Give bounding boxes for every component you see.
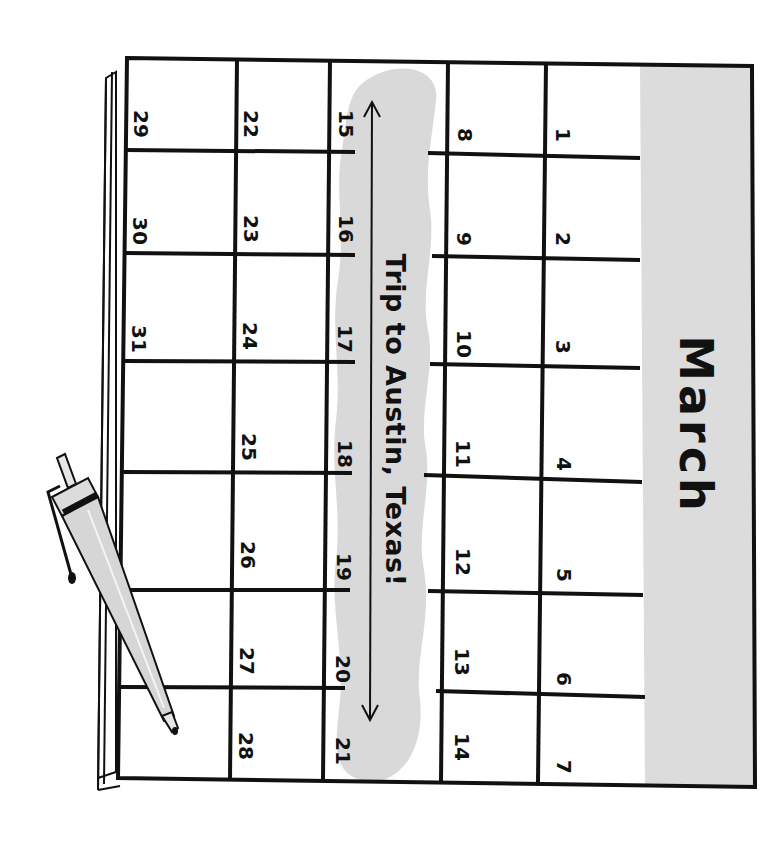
day-1[interactable]: 1	[551, 128, 575, 142]
pad-back-pages	[98, 72, 120, 790]
day-11[interactable]: 11	[451, 440, 475, 468]
day-27[interactable]: 27	[235, 647, 259, 675]
day-23[interactable]: 23	[239, 215, 263, 243]
day-13[interactable]: 13	[450, 648, 474, 676]
day-16[interactable]: 16	[334, 215, 358, 243]
day-10[interactable]: 10	[452, 330, 476, 358]
day-12[interactable]: 12	[451, 548, 475, 576]
day-28[interactable]: 28	[234, 732, 258, 760]
day-31[interactable]: 31	[127, 325, 151, 353]
day-30[interactable]: 30	[128, 217, 152, 245]
day-6[interactable]: 6	[552, 672, 576, 686]
svg-text:March: March	[669, 335, 723, 515]
month-title: March	[669, 335, 723, 515]
day-17[interactable]: 17	[333, 325, 357, 353]
calendar-illustration: March 1 2 3 4 5 6 7 8 9 10 11 12 13 14 1…	[0, 0, 765, 841]
day-5[interactable]: 5	[552, 568, 576, 582]
event-label: Trip to Austin, Texas!	[380, 254, 411, 587]
day-15[interactable]: 15	[334, 110, 358, 138]
svg-text:Trip to Austin, Texas!: Trip to Austin, Texas!	[380, 254, 411, 587]
day-20[interactable]: 20	[331, 655, 355, 683]
day-21[interactable]: 21	[331, 737, 355, 765]
day-24[interactable]: 24	[238, 322, 262, 350]
day-29[interactable]: 29	[129, 110, 153, 138]
day-9[interactable]: 9	[452, 232, 476, 246]
day-26[interactable]: 26	[236, 541, 260, 569]
calendar-sheet	[118, 58, 755, 787]
day-19[interactable]: 19	[332, 553, 356, 581]
day-22[interactable]: 22	[239, 110, 263, 138]
day-14[interactable]: 14	[450, 733, 474, 761]
day-25[interactable]: 25	[237, 433, 261, 461]
day-3[interactable]: 3	[551, 340, 575, 354]
day-7[interactable]: 7	[552, 760, 576, 774]
day-18[interactable]: 18	[333, 440, 357, 468]
day-4[interactable]: 4	[552, 457, 576, 471]
day-8[interactable]: 8	[453, 128, 477, 142]
day-2[interactable]: 2	[551, 232, 575, 246]
